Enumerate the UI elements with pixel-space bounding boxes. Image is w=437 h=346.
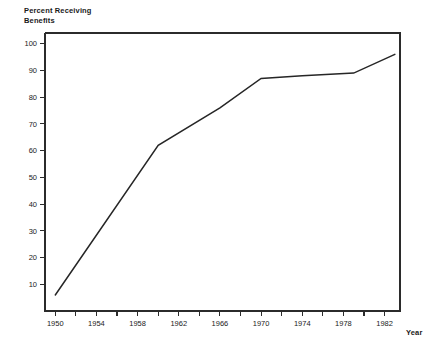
y-axis-tick-label: 30: [29, 227, 37, 236]
y-axis-tick-label: 60: [29, 146, 37, 155]
x-axis-tick-label: 1962: [170, 319, 187, 328]
y-axis-title: Percent ReceivingBenefits: [24, 6, 92, 25]
y-axis-tick-label: 90: [29, 66, 37, 75]
x-axis-tick-label: 1954: [88, 319, 105, 328]
chart-figure: Percent ReceivingBenefits Year 102030405…: [0, 0, 437, 346]
x-axis-tick-label: 1958: [129, 319, 146, 328]
x-axis-tick-label: 1950: [47, 319, 64, 328]
y-axis-tick-label: 70: [29, 120, 37, 129]
x-axis-tick-label: 1970: [253, 319, 270, 328]
plot-border: [45, 33, 400, 311]
x-axis-tick-label: 1978: [335, 319, 352, 328]
x-axis-tick-label: 1982: [376, 319, 393, 328]
y-axis-title-line2: Benefits: [24, 16, 55, 25]
y-axis-title-line1: Percent Receiving: [24, 6, 92, 15]
y-axis-tick-label: 20: [29, 253, 37, 262]
y-axis-tick-label: 80: [29, 93, 37, 102]
x-axis-tick-label: 1974: [294, 319, 311, 328]
line-chart-plot: 1020304050607080901001950195419581962196…: [0, 0, 437, 346]
x-axis-tick-label: 1966: [212, 319, 229, 328]
y-axis-tick-label: 40: [29, 200, 37, 209]
data-series-line: [55, 54, 395, 295]
y-axis-tick-label: 10: [29, 280, 37, 289]
x-axis-title: Year: [406, 328, 422, 337]
y-axis-tick-label: 100: [24, 39, 37, 48]
y-axis-tick-label: 50: [29, 173, 37, 182]
